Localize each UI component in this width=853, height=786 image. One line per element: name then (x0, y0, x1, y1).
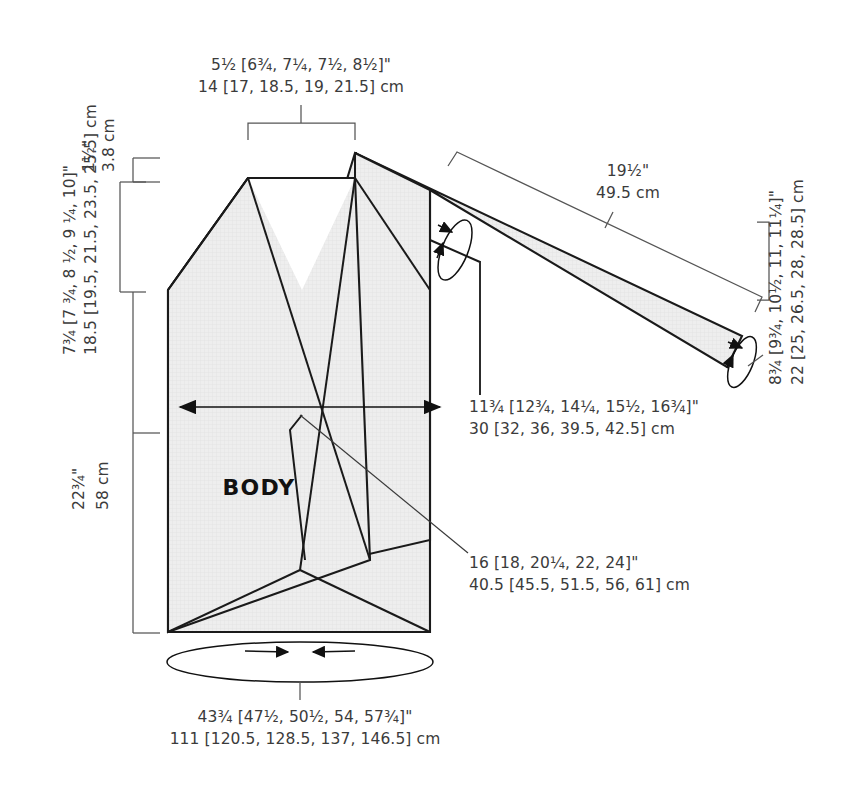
upper-arm-metric: 30 [32, 36, 39.5, 42.5] cm (469, 420, 675, 438)
garment-schematic-svg: 5½ [6¾, 7¼, 7½, 8½]" 14 [17, 18.5, 19, 2… (0, 0, 853, 786)
shoulder-width-metric: 14 [17, 18.5, 19, 21.5] cm (198, 78, 404, 96)
upper-arm-imperial: 11¾ [12¾, 14¼, 15½, 16¾]" (469, 398, 699, 416)
sleeve-length-imperial: 19½" (607, 162, 649, 180)
schematic-page: 5½ [6¾, 7¼, 7½, 8½]" 14 [17, 18.5, 19, 2… (0, 0, 853, 786)
cross-back-metric: 40.5 [45.5, 51.5, 56, 61] cm (469, 576, 690, 594)
body-length-imperial: 22¾" (70, 468, 88, 510)
left-dimension-ladder (120, 158, 160, 633)
body-piece-label: BODY (223, 475, 296, 500)
shoulder-width-bracket (248, 105, 355, 140)
neck-drop-metric: 3.8 cm (100, 118, 118, 172)
hem-circumference-metric: 111 [120.5, 128.5, 137, 146.5] cm (170, 730, 441, 748)
cross-back-imperial: 16 [18, 20¼, 22, 24]" (469, 554, 638, 572)
armhole-depth-imperial: 7¾ [7 ¾, 8 ½, 9 ¼, 10]" (61, 165, 79, 355)
cuff-metric: 22 [25, 26.5, 28, 28.5] cm (789, 179, 807, 385)
shoulder-width-imperial: 5½ [6¾, 7¼, 7½, 8½]" (211, 56, 391, 74)
cuff-imperial: 8¾ [9¾, 10½, 11, 11¼]" (767, 190, 785, 385)
body-length-metric: 58 cm (94, 461, 112, 510)
armhole-depth-metric: 18.5 [19.5, 21.5, 23.5, 25.5] cm (82, 104, 100, 355)
hem-circumference-loop (167, 642, 433, 700)
body-piece (168, 153, 480, 632)
sleeve-length-metric: 49.5 cm (596, 184, 660, 202)
hem-circumference-imperial: 43¾ [47½, 50½, 54, 57¾]" (198, 708, 413, 726)
